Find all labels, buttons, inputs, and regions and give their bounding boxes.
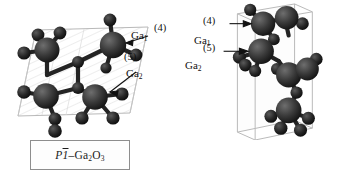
ga-atom	[33, 83, 59, 109]
panel-p-1-ga2o3: Ga1 (4) (5) Ga2 P1–Ga2O3	[0, 0, 177, 186]
caption-box-p-1: P1–Ga2O3	[30, 140, 130, 170]
ga-atom	[276, 98, 302, 124]
ga1-atom-4-coordinate	[100, 32, 126, 58]
ga-atom	[35, 38, 60, 63]
ga2-atom-5-coordinate	[82, 84, 108, 110]
label-ga2-left: Ga2	[126, 68, 143, 79]
crystal-structure-p-1	[0, 0, 177, 140]
label-coordination-4-left: (4)	[154, 23, 166, 34]
caption-text-p-1: P1–Ga2O3	[55, 149, 104, 161]
ga-atom	[296, 58, 319, 81]
ga-atom	[275, 6, 299, 30]
label-ga1-left: Ga1	[131, 30, 148, 41]
ga1-atom-4-coordinate	[251, 11, 275, 35]
label-coordination-4-right: (4)	[203, 16, 215, 27]
panel-pmc21-ga2o3: (4) Ga1 (5) Ga2 Pmc21–Ga2O3	[177, 0, 354, 186]
ga2-atom-5-coordinate	[248, 38, 274, 64]
label-coordination-5-left: (5)	[124, 52, 136, 63]
label-ga2-right: Ga2	[185, 60, 202, 71]
label-coordination-5-right: (5)	[203, 43, 215, 54]
